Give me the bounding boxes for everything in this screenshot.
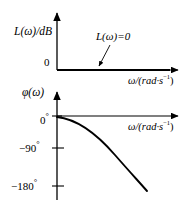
magnitude-y-tick-label: 0 bbox=[44, 57, 50, 68]
magnitude-y-axis-label: L(ω)/dB bbox=[14, 26, 52, 38]
magnitude-x-axis-label-tail: ) bbox=[170, 75, 174, 86]
phase-y-tick-label-minus180: −180° bbox=[11, 178, 37, 192]
magnitude-x-axis-label-exponent: −1 bbox=[163, 73, 170, 80]
phase-x-axis-label: ω/(rad·s−1) bbox=[128, 120, 174, 132]
phase-tick-minus90-unit: ° bbox=[36, 139, 39, 149]
phase-tick-minus180-value: −180 bbox=[11, 180, 34, 192]
phase-y-axis-label: φ(ω) bbox=[22, 87, 44, 99]
phase-x-axis-label-exponent: −1 bbox=[163, 119, 170, 126]
phase-tick-minus90-value: −90 bbox=[19, 142, 36, 154]
bode-plot-figure: L(ω)/dB 0 L(ω)=0 ω/(rad·s−1) φ(ω) 0° −90… bbox=[0, 0, 188, 201]
phase-tick-minus180-unit: ° bbox=[34, 177, 37, 187]
phase-y-tick-label-minus90: −90° bbox=[19, 140, 40, 154]
phase-tick-0-unit: ° bbox=[46, 111, 49, 121]
magnitude-x-axis-label-main: ω/(rad·s bbox=[128, 75, 163, 86]
magnitude-annotation-leader bbox=[99, 45, 110, 66]
phase-plot-group bbox=[52, 92, 178, 200]
phase-x-axis-label-tail: ) bbox=[170, 121, 174, 132]
phase-y-tick-label-0: 0° bbox=[40, 112, 49, 126]
phase-x-axis-label-main: ω/(rad·s bbox=[128, 121, 163, 132]
magnitude-annotation-label: L(ω)=0 bbox=[96, 31, 130, 42]
magnitude-x-axis-label: ω/(rad·s−1) bbox=[128, 74, 174, 86]
